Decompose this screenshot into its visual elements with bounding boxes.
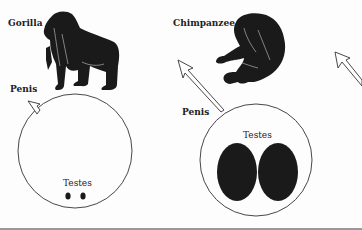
- diagram-graphics: [0, 0, 362, 230]
- gorilla-testis-right-icon: [80, 192, 85, 199]
- diagram-canvas: Gorilla Penis Testes Chimpanzee Penis Te…: [0, 0, 362, 230]
- offscreen-penis-arrow-icon: [335, 52, 362, 86]
- chimpanzee-testes-label: Testes: [243, 130, 272, 140]
- gorilla-silhouette-icon: [44, 12, 119, 90]
- chimpanzee-testis-left-icon: [217, 143, 257, 201]
- chimpanzee-label: Chimpanzee: [173, 18, 235, 28]
- chimpanzee-penis-arrow-icon: [178, 60, 224, 112]
- gorilla-label: Gorilla: [8, 18, 43, 28]
- chimpanzee-testis-right-icon: [258, 143, 298, 201]
- separator-line: [0, 228, 362, 230]
- gorilla-penis-label: Penis: [10, 84, 37, 94]
- chimpanzee-penis-label: Penis: [182, 107, 209, 117]
- gorilla-testis-left-icon: [65, 192, 70, 199]
- gorilla-testes-label: Testes: [63, 178, 92, 188]
